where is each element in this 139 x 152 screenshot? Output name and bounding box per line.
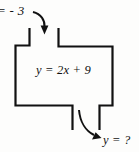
machine-box-outline: [16, 28, 113, 130]
output-value-label: y = ?: [103, 134, 130, 147]
input-arrow-curve: [33, 12, 45, 27]
function-machine-diagram: = - 3 y = 2x + 9 y = ?: [0, 0, 139, 152]
input-value-label: = - 3: [0, 4, 25, 17]
machine-rule-label: y = 2x + 9: [36, 64, 91, 77]
input-arrow-head: [41, 26, 49, 35]
output-arrow-head: [92, 132, 102, 139]
output-arrow-curve: [79, 110, 94, 135]
